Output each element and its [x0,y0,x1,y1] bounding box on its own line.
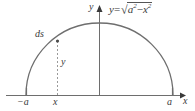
curve-equation-label: y=√a2−x2 [109,2,152,15]
left-endpoint-label: −a [17,97,29,107]
figure-canvas [0,0,195,111]
y-axis-arrowhead [97,5,103,12]
equation-exp-x: 2 [148,2,152,10]
radical-sign: √ [121,3,128,17]
equation-radicand: a2−x2 [127,2,153,15]
abscissa-label: x [53,97,57,107]
right-endpoint-label: a [167,97,172,107]
equation-radical: √a2−x2 [120,2,152,15]
y-axis-label: y [89,2,93,12]
semicircle-arc-length-figure: y=√a2−x2 y x ds y −a x a [0,0,195,111]
ordinate-label: y [61,57,65,67]
arc-point-marker [56,39,59,42]
x-axis-label: x [183,96,187,106]
arc-element-label: ds [35,29,44,39]
